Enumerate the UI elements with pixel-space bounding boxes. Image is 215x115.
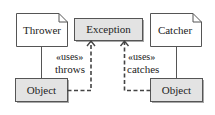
object-left-label: Object: [15, 84, 68, 96]
throws-stereotype: «uses»: [56, 51, 83, 63]
catches-stereotype: «uses»: [128, 51, 155, 63]
object-right-label: Object: [150, 84, 203, 96]
catches-label: catches: [127, 63, 159, 75]
thrower-label: Thrower: [16, 24, 68, 36]
exception-label: Exception: [74, 23, 143, 35]
throws-label: throws: [55, 63, 85, 75]
diagram-canvas: [0, 0, 215, 115]
catcher-label: Catcher: [150, 24, 200, 36]
